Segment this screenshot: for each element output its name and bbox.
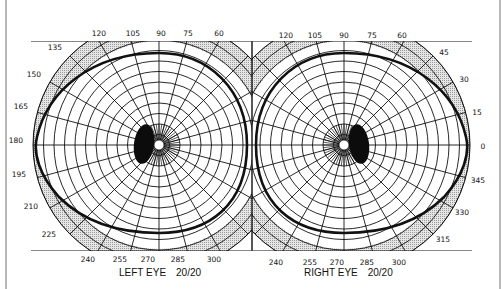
meridian-label: 120 — [92, 29, 107, 38]
meridian-label: 255 — [113, 255, 128, 264]
meridian-label: 300 — [207, 255, 222, 264]
meridian-label: 255 — [303, 258, 318, 267]
meridian-label: 240 — [269, 258, 284, 267]
meridian-label: 165 — [14, 102, 29, 111]
meridian-label: 105 — [308, 31, 323, 40]
right-eye-label: RIGHT EYE20/20 — [304, 267, 393, 278]
meridian-label: 315 — [436, 235, 451, 244]
meridian-label: 150 — [27, 70, 42, 79]
meridian-label: 135 — [48, 43, 63, 52]
meridian-label: 180 — [9, 136, 24, 145]
meridian-label: 120 — [279, 31, 294, 40]
meridian-label: 105 — [126, 29, 141, 38]
meridian-label: 270 — [141, 255, 156, 264]
meridian-label: 345 — [471, 176, 486, 185]
meridian-label: 90 — [339, 31, 349, 40]
meridian-label: 195 — [12, 170, 27, 179]
meridian-label: 45 — [439, 48, 449, 57]
meridian-label: 270 — [330, 258, 345, 267]
meridian-label: 60 — [214, 29, 224, 38]
meridian-label: 15 — [472, 108, 482, 117]
meridian-label: 330 — [455, 208, 470, 217]
meridian-label: 30 — [459, 75, 469, 84]
meridian-label: 300 — [392, 258, 407, 267]
meridian-label: 240 — [81, 255, 96, 264]
meridian-label: 210 — [24, 202, 39, 211]
meridian-label: 285 — [171, 255, 186, 264]
meridian-label: 225 — [42, 230, 57, 239]
meridian-label: 285 — [360, 258, 375, 267]
left-eye-label: LEFT EYE20/20 — [119, 267, 202, 278]
visual-field-diagram: LEFT EYE20/20 RIGHT EYE20/20 12010590756… — [0, 0, 503, 289]
meridian-label: 75 — [367, 31, 377, 40]
meridian-label: 75 — [183, 29, 193, 38]
meridian-label: 90 — [156, 29, 166, 38]
meridian-label: 0 — [481, 142, 486, 151]
meridian-label: 60 — [397, 31, 407, 40]
